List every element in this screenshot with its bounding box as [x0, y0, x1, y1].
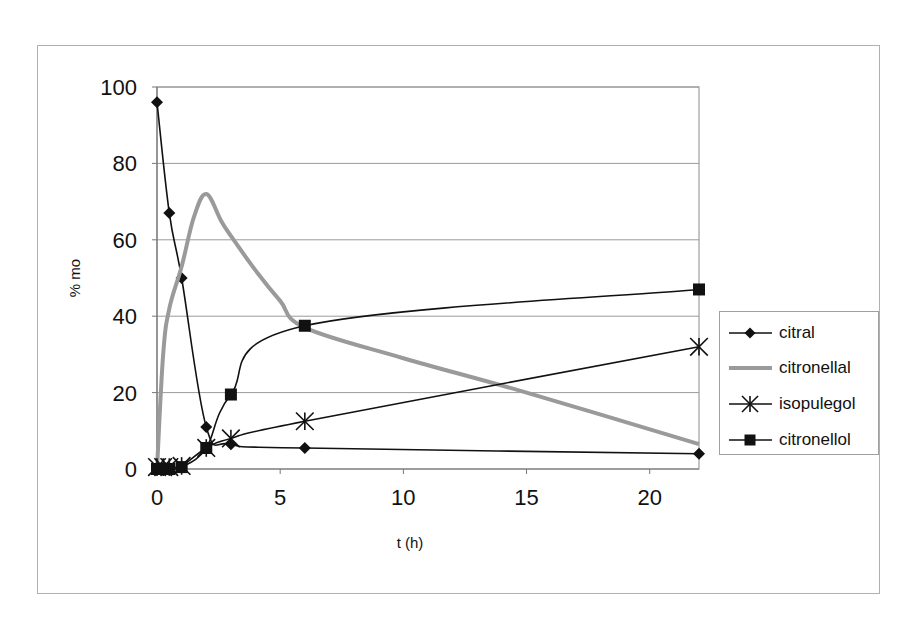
- square-marker: [225, 389, 237, 401]
- square-marker: [200, 442, 212, 454]
- plot-frame: [157, 87, 699, 469]
- square-marker: [693, 283, 705, 295]
- y-tick-label: 20: [113, 381, 137, 406]
- y-axis-title: % mo: [66, 259, 83, 297]
- legend-label: citronellal: [779, 358, 851, 377]
- y-tick-label: 80: [113, 151, 137, 176]
- x-tick-label: 5: [274, 485, 286, 510]
- legend: citral citronellal isopulegol citronello…: [720, 312, 879, 455]
- square-marker: [176, 461, 188, 473]
- x-tick-label: 0: [151, 485, 163, 510]
- y-tick-label: 40: [113, 304, 137, 329]
- x-axis-title: t (h): [397, 534, 424, 551]
- square-marker: [299, 320, 311, 332]
- y-tick-label: 60: [113, 228, 137, 253]
- x-tick-label: 15: [514, 485, 538, 510]
- y-tick-label: 100: [100, 75, 137, 100]
- y-tick-label: 0: [125, 457, 137, 482]
- legend-label: citral: [779, 323, 815, 342]
- legend-label: isopulegol: [779, 394, 856, 413]
- square-marker: [163, 463, 175, 475]
- chart: 02040608010005101520 t (h) % mo citral c…: [0, 0, 915, 626]
- plot-area: [157, 87, 699, 469]
- x-tick-label: 10: [391, 485, 415, 510]
- legend-label: citronellol: [779, 430, 851, 449]
- square-marker: [745, 435, 756, 446]
- x-tick-label: 20: [637, 485, 661, 510]
